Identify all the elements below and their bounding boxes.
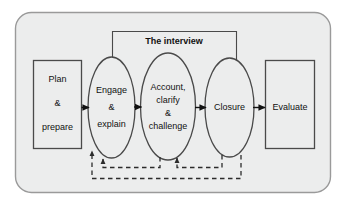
interview-process-diagram: Plan & prepare Engage & explain Account,… [0, 0, 346, 205]
interview-bracket-label: The interview [145, 36, 204, 46]
node-account-clarify-challenge-shape [141, 53, 196, 160]
node-plan-prepare-line-0: Plan [48, 74, 66, 84]
node-plan-prepare-line-1: & [54, 98, 60, 108]
node-account-clarify-challenge-line-2: & [165, 108, 171, 118]
node-evaluate-line-0: Evaluate [272, 102, 307, 112]
node-plan-prepare: Plan & prepare [34, 61, 82, 149]
node-evaluate: Evaluate [266, 61, 315, 149]
node-account-clarify-challenge-line-1: clarify [156, 95, 180, 105]
node-engage-explain-line-1: & [108, 102, 114, 112]
node-engage-explain: Engage & explain [88, 57, 135, 158]
node-closure-line-0: Closure [214, 102, 245, 112]
node-account-clarify-challenge-line-3: challenge [149, 121, 188, 131]
diagram-canvas: Plan & prepare Engage & explain Account,… [0, 0, 346, 205]
node-account-clarify-challenge: Account, clarify & challenge [141, 53, 196, 160]
node-engage-explain-line-0: Engage [96, 85, 127, 95]
node-engage-explain-line-2: explain [97, 119, 126, 129]
node-closure: Closure [205, 58, 254, 157]
node-plan-prepare-line-2: prepare [42, 122, 73, 132]
node-account-clarify-challenge-line-0: Account, [150, 82, 185, 92]
